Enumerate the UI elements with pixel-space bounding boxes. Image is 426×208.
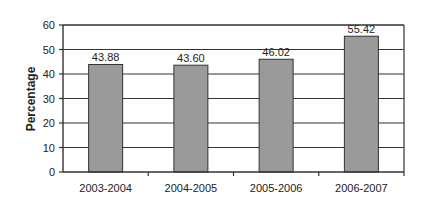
x-tick-label: 2005-2006	[250, 182, 303, 194]
y-tick-label: 0	[49, 166, 55, 178]
y-tick-label: 60	[43, 19, 55, 31]
bar	[89, 64, 123, 172]
bar-chart: 43.8843.6046.0255.42 0102030405060 2003-…	[0, 0, 426, 208]
bar-value-label: 43.88	[92, 51, 120, 63]
x-tick-label: 2006-2007	[335, 182, 388, 194]
x-tick-label: 2003-2004	[79, 182, 132, 194]
bar-value-label: 43.60	[177, 52, 205, 64]
y-tick-label: 10	[43, 142, 55, 154]
y-tick-label: 40	[43, 68, 55, 80]
y-tick-label: 30	[43, 93, 55, 105]
x-tick-label: 2004-2005	[165, 182, 218, 194]
x-axis-ticks: 2003-20042004-20052005-20062006-2007	[79, 172, 404, 194]
y-tick-label: 20	[43, 117, 55, 129]
bar	[259, 59, 293, 172]
y-axis-ticks: 0102030405060	[43, 19, 63, 178]
bar-value-label: 46.02	[262, 46, 290, 58]
bars: 43.8843.6046.0255.42	[89, 23, 379, 172]
y-tick-label: 50	[43, 44, 55, 56]
bar	[174, 65, 208, 172]
bar	[344, 36, 378, 172]
y-axis-label: Percentage	[24, 66, 38, 131]
